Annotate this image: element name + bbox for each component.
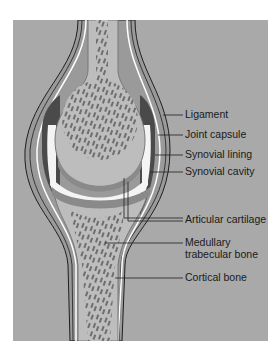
label-trabecular-bone: trabecular bone — [185, 249, 258, 260]
synovial-joint-diagram: Ligament Joint capsule Synovial lining S… — [0, 0, 278, 355]
label-joint-capsule: Joint capsule — [185, 129, 246, 140]
label-articular-cartilage: Articular cartilage — [185, 214, 266, 225]
label-synovial-lining: Synovial lining — [185, 149, 252, 160]
label-ligament: Ligament — [185, 109, 228, 120]
label-cortical-bone: Cortical bone — [185, 272, 247, 283]
label-medullary: Medullary — [185, 237, 231, 248]
joint-illustration — [0, 0, 278, 355]
label-synovial-cavity: Synovial cavity — [185, 166, 254, 177]
